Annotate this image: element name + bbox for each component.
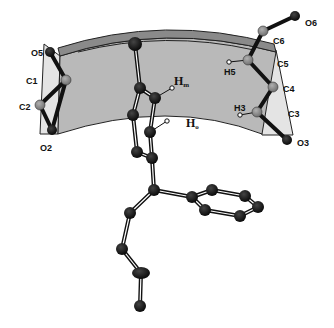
- atom-O2: [47, 125, 57, 135]
- label-O2: O2: [40, 144, 52, 153]
- molecular-diagram: O5 C1 C2 O2 O6 C6 C5 C4 C3 O3 H5 H3 Hm H…: [0, 0, 334, 328]
- label-Ho: Ho: [186, 117, 199, 131]
- label-O3: O3: [297, 139, 309, 148]
- atom-C6: [258, 26, 268, 36]
- hydrogen-atom-ho: [165, 119, 169, 123]
- atom-O6: [290, 11, 300, 21]
- label-O5: O5: [31, 49, 43, 58]
- atom-C3: [252, 107, 262, 117]
- label-H5: H5: [224, 68, 236, 77]
- label-C3: C3: [288, 110, 300, 119]
- atom-O3: [282, 135, 292, 145]
- label-C1: C1: [26, 77, 38, 86]
- label-Hm-sub: m: [183, 81, 189, 89]
- atom-C1: [61, 75, 71, 85]
- atom-O5: [45, 47, 55, 57]
- label-Ho-main: H: [186, 116, 195, 130]
- label-O6: O6: [305, 19, 317, 28]
- atom-C2: [35, 100, 45, 110]
- atom-H3: [238, 113, 242, 117]
- atom-C4: [268, 82, 278, 92]
- label-C4: C4: [283, 85, 295, 94]
- label-C5: C5: [277, 60, 289, 69]
- label-C6: C6: [273, 37, 285, 46]
- diagram-canvas: [0, 0, 334, 328]
- label-H3: H3: [234, 104, 246, 113]
- label-Hm-main: H: [174, 74, 183, 88]
- label-C2: C2: [19, 103, 31, 112]
- label-Hm: Hm: [174, 75, 189, 89]
- label-Ho-sub: o: [195, 123, 199, 131]
- atom-C5: [243, 55, 253, 65]
- atom-H5: [227, 60, 231, 64]
